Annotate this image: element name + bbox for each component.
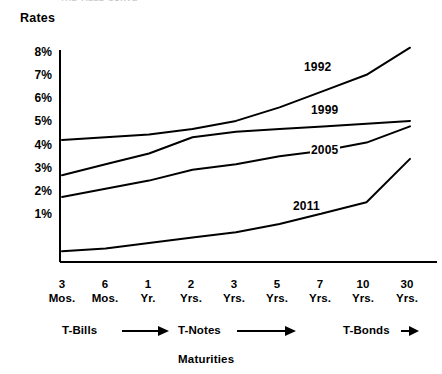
x-axis-tick-1yr-unit: Yr. (125, 291, 171, 305)
x-axis-tick-10yrs-unit: Yrs. (340, 291, 386, 305)
x-axis-title: Maturities (178, 353, 234, 365)
x-axis-tick-10yrs: 10 Yrs. (340, 277, 386, 305)
band-label-t-bills: T-Bills (62, 324, 97, 336)
x-axis-tick-5yrs-number: 5 (254, 277, 300, 291)
series-line-1992 (62, 48, 410, 140)
series-label-1992: 1992 (303, 60, 333, 74)
x-axis-tick-3yrs: 3 Yrs. (211, 277, 257, 305)
x-axis-tick-30yrs-number: 30 (384, 277, 430, 291)
x-axis-tick-2yrs: 2 Yrs. (168, 277, 214, 305)
x-axis-tick-3yrs-unit: Yrs. (211, 291, 257, 305)
x-axis-tick-5yrs: 5 Yrs. (254, 277, 300, 305)
plot-area (0, 0, 442, 374)
series-label-1999: 1999 (310, 103, 340, 117)
t-bills-arrow-icon (122, 326, 169, 336)
x-axis-tick-6mos-unit: Mos. (82, 291, 128, 305)
series-label-2011: 2011 (292, 199, 321, 213)
x-axis-tick-3mos: 3 Mos. (39, 277, 85, 305)
x-axis-tick-1yr-number: 1 (125, 277, 171, 291)
t-notes-arrow-icon (237, 326, 296, 336)
x-axis-tick-3yrs-number: 3 (211, 277, 257, 291)
x-axis-tick-7yrs-unit: Yrs. (297, 291, 343, 305)
x-axis-tick-6mos: 6 Mos. (82, 277, 128, 305)
x-axis-tick-3mos-number: 3 (39, 277, 85, 291)
x-axis-tick-5yrs-unit: Yrs. (254, 291, 300, 305)
series-label-2005: 2005 (310, 143, 340, 157)
x-axis-tick-2yrs-number: 2 (168, 277, 214, 291)
x-axis-tick-30yrs: 30 Yrs. (384, 277, 430, 305)
yield-curve-chart: THE YIELD CURVE Rates 8% 7% 6% 5% 4% 3% … (0, 0, 442, 374)
band-label-t-bonds: T-Bonds (343, 324, 390, 336)
series-line-2011 (62, 159, 410, 251)
x-axis-tick-7yrs: 7 Yrs. (297, 277, 343, 305)
x-axis-tick-6mos-number: 6 (82, 277, 128, 291)
band-label-t-notes: T-Notes (178, 324, 221, 336)
x-axis-tick-3mos-unit: Mos. (39, 291, 85, 305)
x-axis-tick-1yr: 1 Yr. (125, 277, 171, 305)
t-bonds-arrow-icon (401, 326, 419, 336)
series-line-1999 (62, 121, 410, 175)
x-axis-tick-7yrs-number: 7 (297, 277, 343, 291)
x-axis-tick-2yrs-unit: Yrs. (168, 291, 214, 305)
x-axis-tick-30yrs-unit: Yrs. (384, 291, 430, 305)
x-axis-tick-10yrs-number: 10 (340, 277, 386, 291)
